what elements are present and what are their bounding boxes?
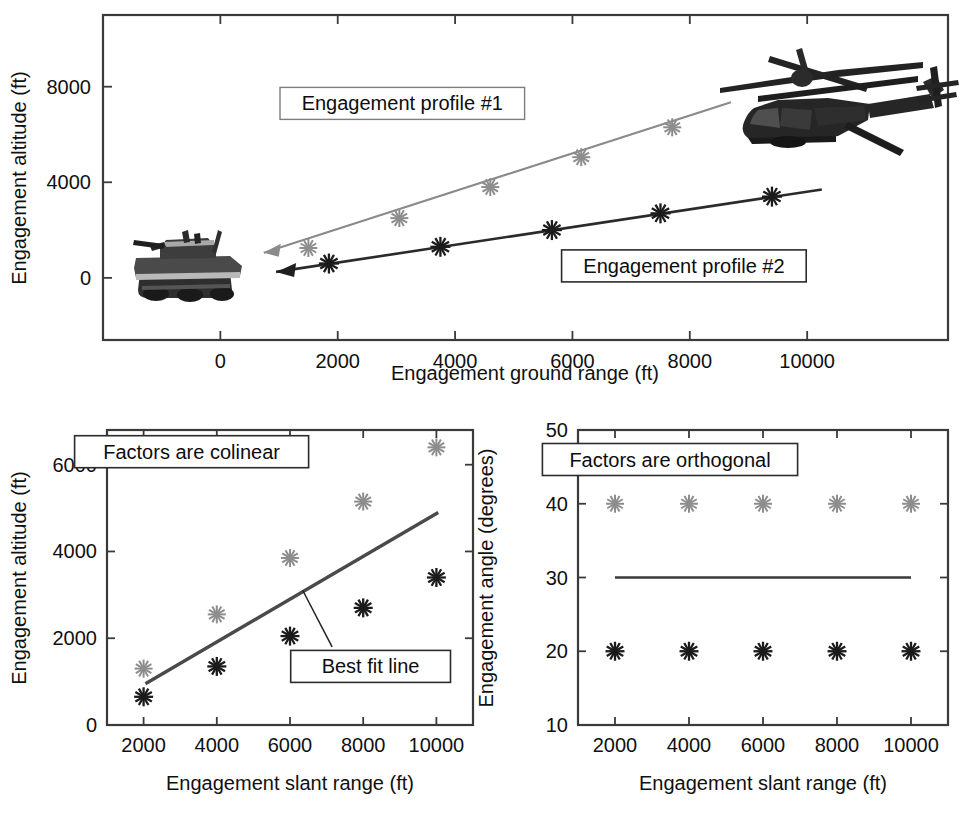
xticklabel: 4000 <box>195 734 240 756</box>
xticklabel: 2000 <box>593 734 638 756</box>
colinear-annotation-label: Factors are colinear <box>103 441 280 463</box>
xticklabel: 6000 <box>741 734 786 756</box>
yticklabel: 20 <box>546 640 568 662</box>
yticklabel: 4000 <box>47 171 92 193</box>
yticklabel: 0 <box>80 267 91 289</box>
chart-factors-colinear: 2000400060008000100000200040006000 Facto… <box>0 400 500 813</box>
xticklabel: 4000 <box>667 734 712 756</box>
xticklabel: 2000 <box>315 350 360 372</box>
chart-engagement-profiles: 0200040006000800010000040008000 Engageme… <box>0 0 967 400</box>
xticklabel: 10000 <box>409 734 465 756</box>
br-yaxis-label: Engagement angle (degrees) <box>475 448 497 707</box>
yticklabel: 2000 <box>53 627 98 649</box>
xticklabel: 8000 <box>668 350 713 372</box>
xticklabel: 8000 <box>815 734 860 756</box>
engagement-figure: 0200040006000800010000040008000 Engageme… <box>0 0 967 813</box>
orthogonal-annotation-label: Factors are orthogonal <box>569 449 770 471</box>
bl-xaxis-label: Engagement slant range (ft) <box>166 772 414 794</box>
xticklabel: 2000 <box>121 734 166 756</box>
yticklabel: 0 <box>86 714 97 736</box>
br-xaxis-label: Engagement slant range (ft) <box>639 772 887 794</box>
bl-yaxis-label: Engagement altitude (ft) <box>8 471 30 684</box>
yticklabel: 30 <box>546 567 568 589</box>
yticklabel: 10 <box>546 714 568 736</box>
chart-factors-orthogonal: 2000400060008000100001020304050 Factors … <box>467 400 967 813</box>
yticklabel: 4000 <box>53 540 98 562</box>
xticklabel: 8000 <box>341 734 386 756</box>
top-xaxis-label: Engagement ground range (ft) <box>391 362 659 384</box>
xticklabel: 10000 <box>779 350 835 372</box>
xticklabel: 6000 <box>268 734 313 756</box>
yticklabel: 40 <box>546 493 568 515</box>
profile2-annotation-label: Engagement profile #2 <box>583 255 784 277</box>
xticklabel: 10000 <box>883 734 939 756</box>
profile1-annotation-label: Engagement profile #1 <box>302 92 503 114</box>
bestfit-annotation-label: Best fit line <box>322 655 420 677</box>
yticklabel: 50 <box>546 419 568 441</box>
yticklabel: 8000 <box>47 76 92 98</box>
xticklabel: 0 <box>215 350 226 372</box>
top-yaxis-label: Engagement altitude (ft) <box>8 71 30 284</box>
